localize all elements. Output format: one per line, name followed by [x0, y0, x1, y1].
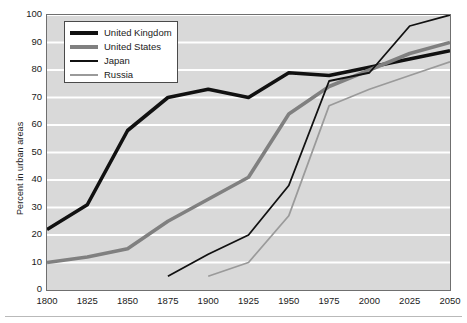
legend-swatch-icon-japan: [70, 60, 98, 62]
legend-item-united-states: United States: [70, 40, 172, 54]
chart-legend: United Kingdom United States Japan Russi…: [64, 21, 178, 83]
x-axis-tick-2025: 2025: [390, 296, 430, 306]
legend-label-united-kingdom: United Kingdom: [104, 28, 172, 38]
legend-label-united-states: United States: [104, 42, 161, 52]
x-axis-tick-1850: 1850: [108, 296, 148, 306]
x-axis-tick-2050: 2050: [430, 296, 467, 306]
legend-swatch-icon-russia: [70, 74, 98, 76]
legend-label-russia: Russia: [104, 70, 133, 80]
legend-label-japan: Japan: [104, 56, 130, 66]
x-axis-tick-1900: 1900: [188, 296, 228, 306]
legend-item-russia: Russia: [70, 68, 172, 82]
legend-item-japan: Japan: [70, 54, 172, 68]
line-chart: Percent in urban areas 01020304050607080…: [0, 0, 467, 323]
legend-swatch-icon-united-states: [70, 45, 98, 49]
legend-item-united-kingdom: United Kingdom: [70, 26, 172, 40]
x-axis-tick-1950: 1950: [269, 296, 309, 306]
x-axis-tick-2000: 2000: [349, 296, 389, 306]
footer-divider: [5, 316, 462, 317]
x-axis-tick-1825: 1825: [67, 296, 107, 306]
x-axis-tick-1925: 1925: [229, 296, 269, 306]
x-axis-tick-1800: 1800: [27, 296, 67, 306]
legend-swatch-icon-united-kingdom: [70, 31, 98, 35]
x-axis-tick-1975: 1975: [309, 296, 349, 306]
x-axis-tick-1875: 1875: [148, 296, 188, 306]
